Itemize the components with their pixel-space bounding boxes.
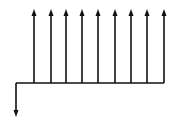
inflow-arrowhead-icon <box>113 9 118 16</box>
inflow-arrowhead-icon <box>129 9 134 16</box>
inflow-arrowhead-icon <box>162 9 167 16</box>
inflow-arrowhead-icon <box>32 9 37 16</box>
inflow-arrowhead-icon <box>145 9 150 16</box>
inflow-arrowhead-icon <box>96 9 101 16</box>
outflow-arrowhead-icon <box>14 110 19 117</box>
inflow-arrowhead-icon <box>49 9 54 16</box>
cash-flow-diagram <box>0 0 175 124</box>
inflow-arrowhead-icon <box>80 9 85 16</box>
inflow-arrowhead-icon <box>64 9 69 16</box>
